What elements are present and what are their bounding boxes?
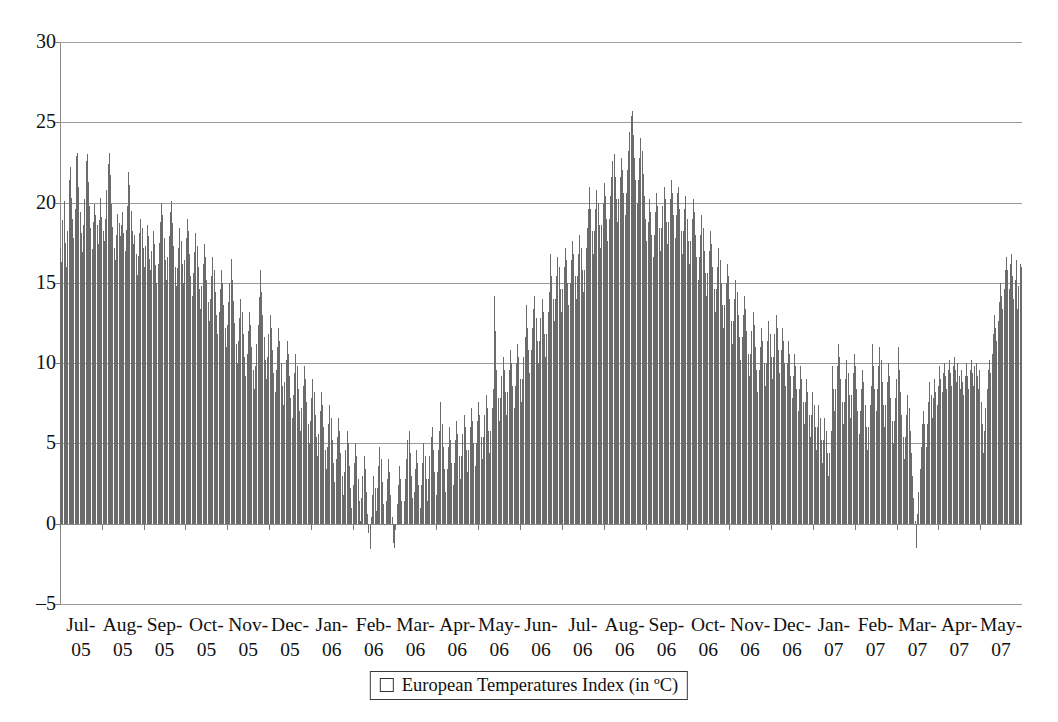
x-tick-label-month: Dec-: [271, 612, 309, 637]
x-tick-label: Oct-06: [691, 612, 726, 662]
x-tick-label-year: 06: [649, 637, 685, 662]
plot-area: [60, 42, 1022, 604]
x-tick: [980, 524, 981, 530]
x-tick-label: Mar-07: [898, 612, 937, 662]
x-tick-label-month: Feb-: [356, 612, 392, 637]
x-tick: [227, 524, 228, 530]
x-tick-label: Nov-05: [228, 612, 268, 662]
x-tick-label-year: 06: [568, 637, 597, 662]
x-tick-label: Feb-07: [858, 612, 894, 662]
x-tick-label-year: 07: [818, 637, 851, 662]
x-tick: [60, 524, 61, 530]
x-tick-label-month: Jun-: [524, 612, 558, 637]
y-axis-labels: –5051015202530: [0, 0, 56, 722]
x-tick: [938, 524, 939, 530]
bar-series: [60, 42, 1022, 604]
x-tick-label-year: 07: [941, 637, 977, 662]
x-tick-label-month: Jul-: [568, 612, 597, 637]
x-tick-label-year: 07: [858, 637, 894, 662]
x-tick-label-month: Sep-: [147, 612, 183, 637]
x-tick-label-month: Mar-: [396, 612, 435, 637]
x-tick: [897, 524, 898, 530]
x-tick-label: Jul-05: [66, 612, 95, 662]
x-tick-label-month: Apr-: [941, 612, 977, 637]
x-tick-label: Jan-07: [818, 612, 851, 662]
x-tick-label-month: Dec-: [773, 612, 811, 637]
x-tick: [311, 524, 312, 530]
legend-label: European Temperatures Index (in ºC): [402, 674, 678, 696]
x-tick-label-month: Jan-: [316, 612, 349, 637]
x-tick-label-month: Sep-: [649, 612, 685, 637]
gridline--5: [60, 604, 1022, 605]
x-tick: [855, 524, 856, 530]
x-tick-label-year: 05: [189, 637, 224, 662]
x-tick: [395, 524, 396, 530]
x-tick-label: Aug-05: [103, 612, 143, 662]
x-tick-label-month: May-: [478, 612, 520, 637]
x-tick-label-year: 06: [396, 637, 435, 662]
y-tick-label--5: –5: [4, 593, 56, 613]
x-tick: [269, 524, 270, 530]
x-tick-label-month: Feb-: [858, 612, 894, 637]
x-tick-label: Jul-06: [568, 612, 597, 662]
x-tick-label-year: 05: [66, 637, 95, 662]
x-tick-label-year: 07: [980, 637, 1022, 662]
x-tick-label-year: 05: [147, 637, 183, 662]
x-tick: [185, 524, 186, 530]
x-tick-label-year: 05: [103, 637, 143, 662]
x-tick-label: Oct-05: [189, 612, 224, 662]
x-tick-label-month: Oct-: [691, 612, 726, 637]
y-tick-label-20: 20: [4, 192, 56, 212]
x-tick: [771, 524, 772, 530]
x-tick-label: Jun-06: [524, 612, 558, 662]
x-axis-labels: Jul-05Aug-05Sep-05Oct-05Nov-05Dec-05Jan-…: [60, 612, 1022, 674]
x-tick-label-year: 07: [898, 637, 937, 662]
x-tick-label: Feb-06: [356, 612, 392, 662]
x-tick-label-month: Apr-: [439, 612, 475, 637]
x-tick-label: Dec-05: [271, 612, 309, 662]
x-tick: [813, 524, 814, 530]
x-tick-label: Apr-07: [941, 612, 977, 662]
x-tick-label-month: Mar-: [898, 612, 937, 637]
chart-legend: European Temperatures Index (in ºC): [370, 671, 688, 700]
y-tick-label-10: 10: [4, 352, 56, 372]
x-tick-label-year: 06: [691, 637, 726, 662]
x-tick: [478, 524, 479, 530]
x-tick-label-year: 06: [478, 637, 520, 662]
legend-swatch-icon: [380, 678, 394, 692]
x-tick: [520, 524, 521, 530]
x-tick-label-year: 06: [316, 637, 349, 662]
x-tick-label-month: Nov-: [730, 612, 770, 637]
y-tick-label-30: 30: [4, 31, 56, 51]
bar: [367, 514, 368, 524]
x-tick-label-month: Nov-: [228, 612, 268, 637]
x-tick-label: Apr-06: [439, 612, 475, 662]
x-tick-label: Jan-06: [316, 612, 349, 662]
bar: [1021, 267, 1022, 524]
x-tick-label-month: Jul-: [66, 612, 95, 637]
x-tick: [436, 524, 437, 530]
x-tick-label: Mar-06: [396, 612, 435, 662]
x-tick-label: Sep-05: [147, 612, 183, 662]
x-tick: [646, 524, 647, 530]
bar: [401, 501, 402, 523]
x-tick-label-year: 05: [228, 637, 268, 662]
x-tick-label-year: 06: [730, 637, 770, 662]
x-tick-label-year: 06: [773, 637, 811, 662]
x-tick: [729, 524, 730, 530]
y-tick-label-25: 25: [4, 111, 56, 131]
temperature-bar-chart: –5051015202530 Jul-05Aug-05Sep-05Oct-05N…: [0, 0, 1058, 722]
x-tick-label: Dec-06: [773, 612, 811, 662]
x-tick: [102, 524, 103, 530]
y-tick-label-5: 5: [4, 432, 56, 452]
x-tick-label-year: 06: [524, 637, 558, 662]
x-tick-label-month: Aug-: [605, 612, 645, 637]
bar: [383, 504, 384, 523]
x-tick-label-month: Jan-: [818, 612, 851, 637]
x-tick-label: Aug-06: [605, 612, 645, 662]
x-tick-label-month: May-: [980, 612, 1022, 637]
x-tick-label-month: Oct-: [189, 612, 224, 637]
x-tick: [144, 524, 145, 530]
x-tick: [687, 524, 688, 530]
x-tick: [604, 524, 605, 530]
